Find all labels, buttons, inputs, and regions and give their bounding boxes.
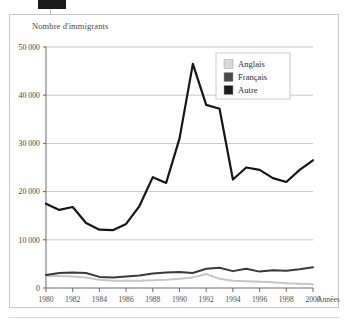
- x-axis-name: Années: [317, 295, 340, 304]
- legend-swatch-0: [224, 60, 233, 69]
- x-tick-label: 1996: [252, 295, 267, 304]
- y-tick-label: 40 000: [19, 91, 41, 100]
- legend-swatch-1: [224, 73, 233, 82]
- x-tick-label: 1980: [38, 295, 53, 304]
- x-tick-label: 1986: [119, 295, 134, 304]
- figure-frame: Nombre d'immigrants 010 00020 00030 0004…: [9, 14, 339, 308]
- scan-artifact-mark: [38, 0, 66, 9]
- y-tick-label: 0: [36, 284, 40, 293]
- bottom-divider: [9, 317, 339, 318]
- x-tick-label: 1998: [279, 295, 294, 304]
- series-line-anglais: [46, 274, 313, 284]
- line-chart: 010 00020 00030 00040 00050 000198019821…: [10, 15, 340, 309]
- y-tick-label: 50 000: [19, 43, 41, 52]
- series-line-francais: [46, 267, 313, 277]
- y-tick-label: 30 000: [19, 139, 41, 148]
- x-tick-label: 1990: [172, 295, 187, 304]
- x-tick-label: 1994: [225, 295, 240, 304]
- x-tick-label: 1988: [145, 295, 160, 304]
- legend-label-1: Français: [238, 72, 268, 82]
- y-tick-label: 10 000: [19, 236, 41, 245]
- y-tick-label: 20 000: [19, 187, 41, 196]
- legend-label-2: Autre: [238, 85, 258, 95]
- x-tick-label: 1982: [65, 295, 80, 304]
- x-tick-label: 1992: [199, 295, 214, 304]
- legend-swatch-2: [224, 86, 233, 95]
- legend-label-0: Anglais: [238, 59, 265, 69]
- x-tick-label: 1984: [92, 295, 107, 304]
